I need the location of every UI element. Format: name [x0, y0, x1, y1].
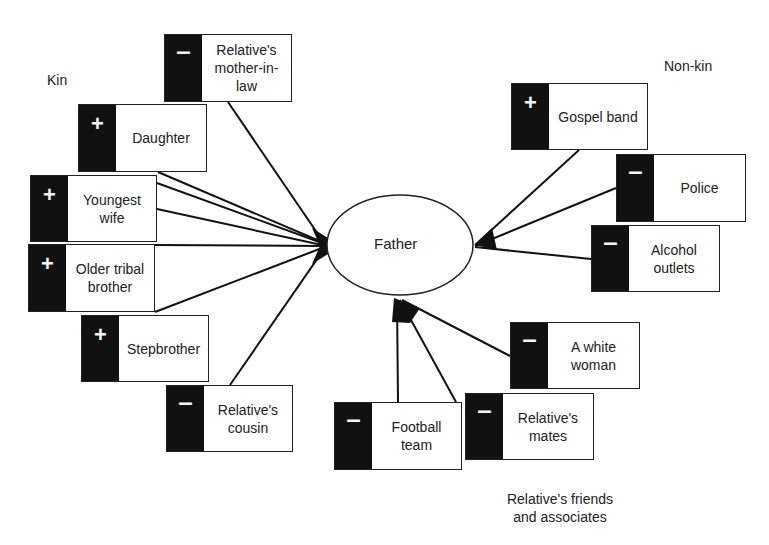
node-police: –Police [616, 154, 746, 222]
node-label: Football team [372, 403, 461, 469]
minus-icon: – [165, 40, 202, 62]
influence-sign-panel: – [167, 386, 204, 451]
node-label: Relative's mother-in-law [202, 35, 291, 101]
edge-youngest-wife [157, 209, 322, 245]
minus-icon: – [511, 328, 548, 350]
plus-icon: + [79, 113, 116, 135]
plus-icon: + [29, 253, 66, 275]
node-relatives-mates: –Relative's mates [465, 393, 594, 460]
node-daughter: +Daughter [78, 104, 207, 172]
node-gospel-band: +Gospel band [511, 83, 648, 150]
node-label: Police [654, 155, 745, 221]
node-label: Relative's mates [503, 394, 593, 459]
minus-icon: – [617, 160, 654, 182]
influence-sign-panel: + [79, 105, 116, 171]
group-label-non-kin: Non-kin [664, 57, 712, 75]
edge-relatives-cousin [230, 252, 322, 385]
node-stepbrother: +Stepbrother [81, 315, 209, 382]
influence-sign-panel: – [165, 35, 202, 101]
minus-icon: – [592, 231, 629, 253]
influence-sign-panel: – [511, 323, 548, 388]
node-label: Youngest wife [68, 176, 156, 241]
node-white-woman: –A white woman [510, 322, 640, 389]
node-label: Alcohol outlets [629, 226, 719, 291]
plus-icon: + [512, 92, 549, 114]
center-node-label: Father [374, 235, 417, 252]
node-label: Stepbrother [119, 316, 208, 381]
node-label: A white woman [548, 323, 639, 388]
minus-icon: – [466, 399, 503, 421]
node-mother-in-law: –Relative's mother-in-law [164, 34, 292, 102]
minus-icon: – [167, 391, 204, 413]
plus-icon: + [31, 184, 68, 206]
influence-sign-panel: + [82, 316, 119, 381]
influence-sign-panel: – [592, 226, 629, 291]
node-label: Daughter [116, 105, 206, 171]
node-alcohol-outlets: –Alcohol outlets [591, 225, 720, 292]
minus-icon: – [335, 408, 372, 430]
plus-icon: + [82, 324, 119, 346]
influence-sign-panel: – [617, 155, 654, 221]
group-label-kin: Kin [47, 71, 67, 89]
edge-mother-in-law [228, 102, 322, 240]
kinship-diagram: Father Kin Non-kin Relative's friends an… [0, 0, 769, 545]
edge-daughter [158, 172, 322, 242]
node-football-team: –Football team [334, 402, 462, 470]
group-label-friends: Relative's friends and associates [500, 490, 620, 526]
node-youngest-wife: +Youngest wife [30, 175, 157, 242]
influence-sign-panel: + [512, 84, 549, 149]
influence-sign-panel: – [466, 394, 503, 459]
influence-sign-panel: + [29, 245, 66, 311]
node-label: Relative's cousin [204, 386, 292, 451]
node-label: Older tribal brother [66, 245, 154, 311]
edge-older-tribal-brother [155, 248, 322, 312]
edge-older-tribal-brother [155, 245, 322, 246]
node-older-tribal-brother: +Older tribal brother [28, 244, 155, 312]
edge-youngest-wife [157, 183, 322, 243]
influence-sign-panel: + [31, 176, 68, 241]
node-relatives-cousin: –Relative's cousin [166, 385, 293, 452]
influence-sign-panel: – [335, 403, 372, 469]
node-label: Gospel band [549, 84, 647, 149]
